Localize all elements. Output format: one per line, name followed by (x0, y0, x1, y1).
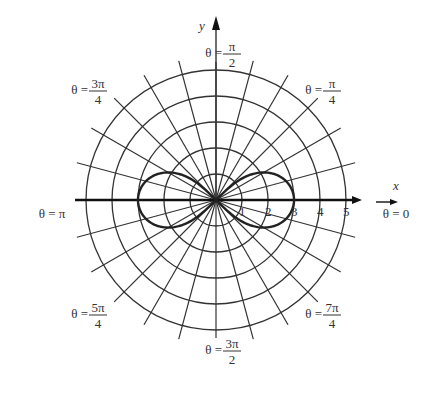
angle-label: θ = (205, 45, 222, 60)
radial-tick-label: 4 (317, 204, 324, 219)
grid-ray (144, 200, 216, 325)
grid-ray (216, 61, 253, 200)
grid-ray (216, 200, 253, 339)
grid-ray (179, 200, 216, 339)
angle-label-denominator: 2 (229, 55, 236, 70)
radial-tick-label: 5 (343, 204, 350, 219)
angle-label-numerator: 5π (91, 300, 105, 315)
radial-tick-label: 3 (291, 204, 298, 219)
angle-label-numerator: 7π (325, 300, 339, 315)
angle-label-numerator: π (329, 76, 336, 91)
angle-label-denominator: 4 (329, 316, 336, 331)
angle-label: θ = (205, 342, 222, 357)
angle-label: θ = 0 (383, 206, 410, 221)
angle-label: θ = (305, 306, 322, 321)
x-axis-label: x (392, 178, 399, 193)
angle-label: θ = (71, 82, 88, 97)
angle-label-numerator: 3π (91, 76, 105, 91)
radial-tick-label: 1 (239, 204, 246, 219)
grid-ray (91, 128, 216, 200)
angle-label-denominator: 4 (329, 92, 336, 107)
grid-ray (179, 61, 216, 200)
y-axis-label: y (197, 18, 205, 33)
angle-label-denominator: 2 (229, 352, 236, 367)
angle-label-numerator: π (229, 39, 236, 54)
angle-label-numerator: 3π (225, 336, 239, 351)
angle-label: θ = π (39, 206, 66, 221)
grid-ray (91, 200, 216, 272)
grid-ray (144, 75, 216, 200)
polar-plot: 12345xyθ = 0θ = π4θ = π2θ = 3π4θ = πθ = … (0, 0, 430, 399)
angle-label-denominator: 4 (95, 316, 102, 331)
grid-ray (216, 75, 288, 200)
grid-ray (216, 128, 341, 200)
theta-zero-arrow-icon (390, 199, 398, 205)
angle-label-denominator: 4 (95, 92, 102, 107)
y-axis-arrow-icon (212, 16, 220, 30)
angle-label: θ = (71, 306, 88, 321)
x-axis-arrow-icon (352, 196, 362, 204)
grid-ray (216, 200, 288, 325)
angle-label: θ = (305, 82, 322, 97)
radial-tick-label: 2 (265, 204, 272, 219)
